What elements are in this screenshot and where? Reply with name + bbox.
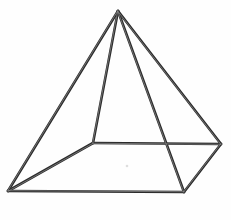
pyramid-figure <box>0 0 231 220</box>
pyramid-wireframe-svg <box>0 0 231 220</box>
speck-center <box>126 165 129 168</box>
paper-marks-group <box>126 165 129 168</box>
figure-background <box>0 0 231 220</box>
